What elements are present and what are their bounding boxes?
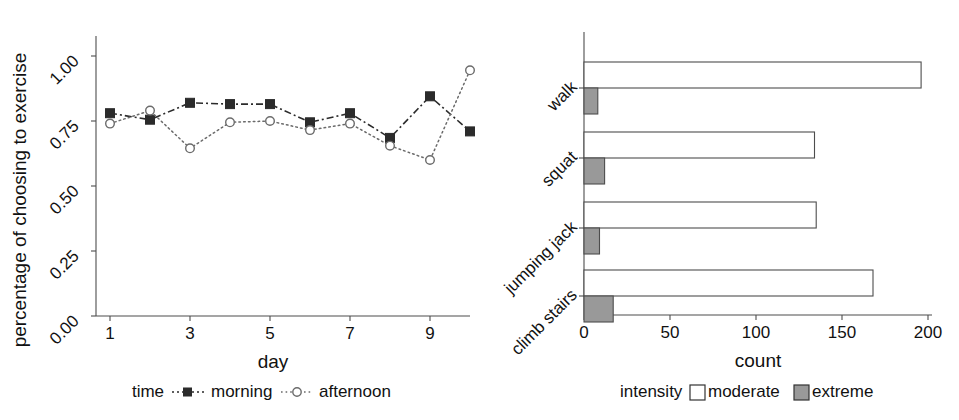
bar-chart-xtick-3: 150	[828, 323, 856, 342]
line-chart-ytick-1: 0.25	[46, 246, 83, 283]
line-series-afternoon	[110, 70, 470, 160]
bar-chart-svg: walk squat jumping jack climb stairs 0 5…	[480, 0, 959, 420]
bar-chart-legend: intensity moderate extreme	[620, 382, 873, 401]
bar-chart-xtick-4: 200	[914, 323, 942, 342]
line-chart-legend-label-morning: morning	[211, 382, 272, 401]
bar-chart-category-squat: squat	[538, 147, 581, 190]
line-chart-ytick-0: 0.00	[46, 311, 83, 348]
bar-moderate-climb-stairs	[584, 270, 873, 296]
bar-chart-category-walk: walk	[543, 77, 582, 116]
data-point-morning-day-1	[106, 109, 115, 118]
bar-chart-legend-label-moderate: moderate	[708, 382, 780, 401]
bar-moderate-squat	[584, 132, 815, 158]
figure-canvas: percentage of choosing to exercise 0.00 …	[0, 0, 959, 420]
line-series-morning	[110, 96, 470, 138]
bar-chart-category-climb-stairs: climb stairs	[507, 285, 581, 359]
line-chart-xtick-0: 1	[105, 324, 114, 343]
line-chart-xtick-1: 3	[185, 324, 194, 343]
line-chart-xtick-3: 7	[345, 324, 354, 343]
data-point-afternoon-day-4	[226, 118, 235, 127]
bar-chart-xtick-2: 100	[742, 323, 770, 342]
line-chart-ytick-4: 1.00	[46, 51, 83, 88]
line-chart-legend: time morning afternoon	[132, 382, 391, 401]
filled-square-marker	[172, 388, 206, 397]
data-point-morning-day-2	[146, 115, 155, 124]
data-point-morning-day-7	[346, 109, 355, 118]
data-point-afternoon-day-2	[146, 106, 155, 115]
bar-chart-x-axis-title: count	[735, 350, 782, 371]
bar-chart-legend-title: intensity	[620, 382, 683, 401]
line-chart-x-axis-title: day	[258, 351, 289, 372]
bar-chart-xtick-1: 50	[661, 323, 680, 342]
data-point-afternoon-day-9	[426, 156, 435, 165]
data-point-afternoon-day-7	[346, 119, 355, 128]
data-point-afternoon-day-3	[186, 144, 195, 153]
bar-extreme-walk	[584, 88, 598, 114]
line-chart-svg: percentage of choosing to exercise 0.00 …	[0, 0, 480, 420]
bar-chart-legend-label-extreme: extreme	[812, 382, 873, 401]
data-point-morning-day-5	[266, 100, 275, 109]
data-point-afternoon-day-10	[466, 66, 475, 75]
bar-moderate-walk	[584, 62, 921, 88]
line-chart-legend-title: time	[132, 382, 164, 401]
bar-chart-category-jumping-jack: jumping jack	[500, 217, 581, 298]
data-point-afternoon-day-1	[106, 119, 115, 128]
data-point-afternoon-day-8	[386, 141, 395, 150]
line-chart-legend-label-afternoon: afternoon	[319, 382, 391, 401]
line-chart-panel: percentage of choosing to exercise 0.00 …	[0, 0, 480, 420]
bar-chart-panel: walk squat jumping jack climb stairs 0 5…	[480, 0, 959, 420]
data-point-morning-day-10	[466, 127, 475, 136]
line-chart-xtick-2: 5	[265, 324, 274, 343]
data-point-afternoon-day-5	[266, 117, 275, 126]
gray-square-swatch	[794, 385, 809, 400]
open-circle-marker	[281, 388, 313, 396]
data-point-morning-day-4	[226, 100, 235, 109]
white-square-swatch	[690, 385, 705, 400]
bar-moderate-jumping-jack	[584, 202, 816, 228]
bar-extreme-jumping-jack	[584, 228, 600, 254]
bar-chart-xtick-0: 0	[579, 323, 588, 342]
line-chart-ytick-2: 0.50	[46, 181, 83, 218]
data-point-afternoon-day-6	[306, 126, 315, 135]
line-chart-y-axis-title: percentage of choosing to exercise	[9, 53, 30, 348]
line-chart-xtick-4: 9	[425, 324, 434, 343]
bar-extreme-squat	[584, 158, 605, 184]
data-point-morning-day-3	[186, 98, 195, 107]
bar-extreme-climb-stairs	[584, 296, 613, 322]
bar-chart-bars-group	[584, 62, 921, 322]
line-chart-series-group	[106, 66, 475, 164]
data-point-morning-day-9	[426, 92, 435, 101]
line-chart-ytick-3: 0.75	[46, 116, 83, 153]
